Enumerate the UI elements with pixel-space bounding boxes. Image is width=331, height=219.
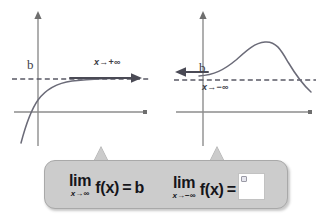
right-asymptote-label-b: b [199, 61, 206, 74]
limit-function-2: f(x) [200, 181, 224, 200]
left-graph-svg [0, 0, 165, 150]
limit-operator-2: lim x→−∞ [172, 175, 195, 200]
limit-subscript-arrow-2: → [177, 191, 185, 200]
right-graph-svg [166, 0, 331, 150]
broken-image-icon [238, 173, 265, 200]
left-x-axis-endpoint [143, 110, 147, 114]
figure-canvas: b x→+∞ b x→−∞ [0, 0, 331, 219]
callout-tail-left [94, 147, 108, 161]
limit-word-1: lim [69, 173, 91, 189]
limit-operator-1: lim x→∞ [69, 173, 91, 198]
limit-equals-2: = [227, 181, 236, 200]
right-y-axis-arrowhead [199, 11, 206, 19]
limit-subscript-1: x→∞ [71, 190, 89, 198]
right-direction-label-target: −∞ [216, 82, 228, 92]
left-direction-label: x→+∞ [94, 58, 121, 67]
limit-word-2: lim [173, 175, 195, 191]
callout-tail-right [210, 147, 224, 161]
caption-callout-box: lim x→∞ f(x) = b lim x→−∞ f(x) = [44, 160, 288, 209]
right-x-axis-endpoint [308, 110, 312, 114]
limit-equals-1: = [122, 179, 131, 198]
limit-expression-minus-infinity: lim x→−∞ f(x) = [172, 172, 265, 200]
right-direction-label: x→−∞ [202, 83, 229, 92]
caption-content: lim x→∞ f(x) = b lim x→−∞ f(x) = [45, 161, 289, 210]
limit-function-1: f(x) [95, 179, 119, 198]
limit-expression-plus-infinity: lim x→∞ f(x) = b [69, 173, 144, 198]
graph-panel-right: b x→−∞ [166, 0, 331, 150]
limit-result-1: b [135, 179, 145, 198]
graph-panel-left: b x→+∞ [0, 0, 165, 150]
left-y-axis-arrowhead [34, 11, 41, 19]
right-direction-arrowhead [175, 67, 186, 77]
left-direction-label-target: +∞ [108, 57, 120, 67]
limit-subscript-target-1: ∞ [83, 189, 89, 198]
limit-subscript-2: x→−∞ [172, 192, 195, 200]
left-direction-arrowhead [131, 73, 142, 83]
limit-subscript-target-2: −∞ [185, 191, 196, 200]
left-asymptote-label-b: b [27, 58, 34, 71]
